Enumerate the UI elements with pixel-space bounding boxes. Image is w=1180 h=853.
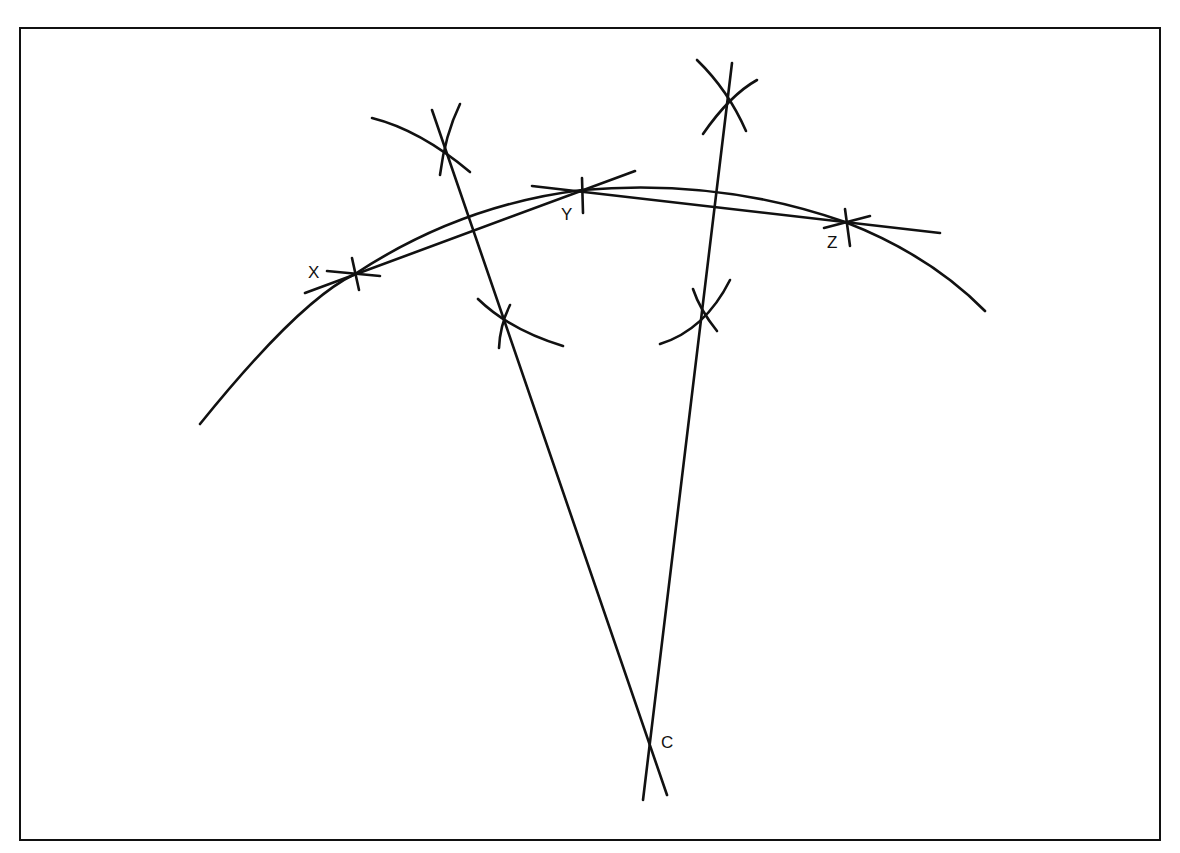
label-x: X xyxy=(308,264,319,281)
compass-arc-xy-bottom-1 xyxy=(478,299,563,346)
bisector-xy xyxy=(432,110,667,795)
label-z: Z xyxy=(827,234,837,251)
tick-z xyxy=(845,209,850,246)
compass-arc-yz-top-1 xyxy=(697,60,746,131)
compass-arc-yz-bottom-1 xyxy=(660,280,730,344)
frame-border xyxy=(20,28,1160,840)
label-y: Y xyxy=(561,206,572,223)
tick-y xyxy=(582,178,583,213)
label-c: C xyxy=(661,734,673,751)
bisector-yz xyxy=(643,63,732,800)
compass-arc-xy-top-1 xyxy=(372,118,470,172)
main-arc xyxy=(200,187,985,424)
chord-yz xyxy=(532,186,940,233)
construction-diagram xyxy=(0,0,1180,853)
